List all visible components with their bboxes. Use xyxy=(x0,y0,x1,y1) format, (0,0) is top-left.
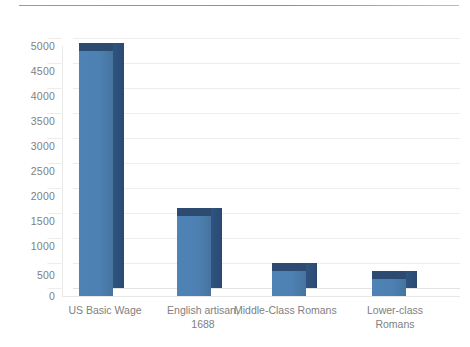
bar-side-face xyxy=(306,263,317,288)
y-axis-line xyxy=(62,46,63,297)
gridline-4500 xyxy=(73,63,460,64)
gridline-1000 xyxy=(73,238,460,239)
y-tick-label-5000: 5000 xyxy=(15,41,55,51)
gridline-5000 xyxy=(73,38,460,39)
x-label-line: Lower-class xyxy=(335,303,455,317)
chart-3d-bar: 5000 4500 4000 3500 3000 2500 2000 1500 … xyxy=(0,0,470,347)
x-label-line: Romans xyxy=(335,317,455,331)
gridline-3500 xyxy=(73,113,460,114)
y-tick-label-3500: 3500 xyxy=(15,116,55,126)
bar-english-artisan-1688[interactable] xyxy=(177,208,211,296)
bar-front-face xyxy=(177,216,211,296)
y-tick-label-2500: 2500 xyxy=(15,166,55,176)
y-tick-label-2000: 2000 xyxy=(15,191,55,201)
bar-top-face xyxy=(177,208,211,216)
y-tick-label-1000: 1000 xyxy=(15,241,55,251)
x-label-line: 1688 xyxy=(143,317,263,331)
gridline-2000 xyxy=(73,188,460,189)
y-tick-label-4500: 4500 xyxy=(15,66,55,76)
gridline-1500 xyxy=(73,213,460,214)
bar-top-face xyxy=(372,271,406,279)
bar-side-face xyxy=(211,208,222,288)
gridline-500 xyxy=(73,263,460,264)
bar-front-face xyxy=(79,51,113,296)
y-tick-label-0: 0 xyxy=(15,291,55,301)
y-tick-label-4000: 4000 xyxy=(15,91,55,101)
bar-side-face xyxy=(406,271,417,288)
x-label-lower-class-romans: Lower-class Romans xyxy=(335,303,455,331)
plot-back-wall xyxy=(73,33,460,289)
bar-lower-class-romans[interactable] xyxy=(372,271,406,296)
bar-top-face xyxy=(79,43,113,51)
top-divider-rule xyxy=(19,5,459,6)
y-tick-label-1500: 1500 xyxy=(15,216,55,226)
gridline-3000 xyxy=(73,138,460,139)
bar-top-face xyxy=(272,263,306,271)
y-tick-label-500: 500 xyxy=(15,270,55,280)
y-tick-label-3000: 3000 xyxy=(15,141,55,151)
gridline-2500 xyxy=(73,163,460,164)
bar-us-basic-wage[interactable] xyxy=(79,43,113,296)
bar-side-face xyxy=(113,43,124,288)
bar-front-face xyxy=(272,271,306,296)
bar-middle-class-romans[interactable] xyxy=(272,263,306,296)
x-axis-line xyxy=(62,296,460,297)
gridline-4000 xyxy=(73,88,460,89)
bar-front-face xyxy=(372,279,406,296)
